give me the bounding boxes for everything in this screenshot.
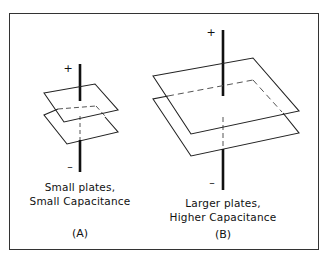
caption-a: Small plates, Small Capacitance [20, 180, 140, 208]
capacitor-b [153, 30, 299, 190]
panel-label-a: (A) [60, 227, 100, 240]
caption-b-line2: Higher Capacitance [163, 210, 283, 224]
upper-plate-b [153, 58, 299, 134]
lower-plate-a [44, 106, 118, 144]
minus-sign-a: – [64, 160, 76, 173]
capacitor-a [44, 64, 118, 172]
lower-plate-b [153, 80, 299, 156]
plus-sign-a: + [62, 62, 74, 75]
panel-label-b: (B) [203, 228, 243, 241]
caption-a-line1: Small plates, [20, 180, 140, 194]
caption-b: Larger plates, Higher Capacitance [163, 196, 283, 224]
plus-sign-b: + [205, 26, 217, 39]
minus-sign-b: – [206, 176, 218, 189]
caption-b-line1: Larger plates, [163, 196, 283, 210]
caption-a-line2: Small Capacitance [20, 194, 140, 208]
